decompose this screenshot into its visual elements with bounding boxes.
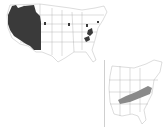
appalachian-range-band xyxy=(118,86,152,104)
inset-eastern-us-map xyxy=(104,58,166,127)
western-range-area xyxy=(8,5,41,50)
inset-state-outlines xyxy=(109,60,162,124)
main-us-map xyxy=(0,0,110,66)
